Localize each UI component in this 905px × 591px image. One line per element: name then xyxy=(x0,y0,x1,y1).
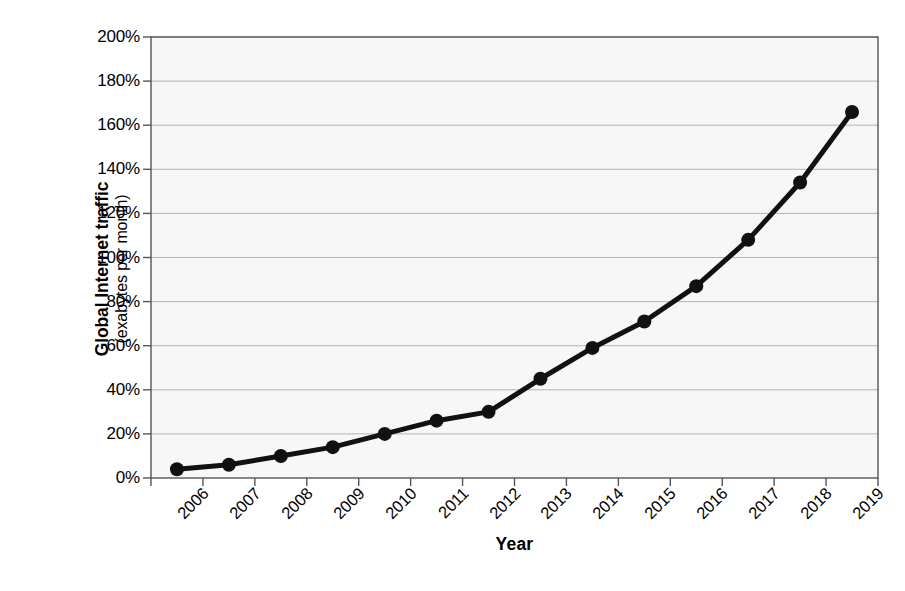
x-axis-tick-label: 2008 xyxy=(277,484,316,523)
x-axis-tick-label: 2011 xyxy=(434,484,472,522)
x-axis-tick-label: 2019 xyxy=(849,484,888,523)
x-axis-tick-label: 2016 xyxy=(693,484,732,523)
x-axis-title: Year xyxy=(151,534,878,555)
x-axis-tick-label: 2010 xyxy=(381,484,420,523)
line-chart: Global Internet traffic (exabytes per mo… xyxy=(0,0,905,591)
x-axis-tick-label: 2017 xyxy=(745,484,784,523)
x-axis-tick-label: 2015 xyxy=(641,484,680,523)
x-axis-tick-label: 2014 xyxy=(589,484,628,523)
x-axis-tick-label: 2013 xyxy=(537,484,576,523)
x-axis-tick-label: 2018 xyxy=(797,484,836,523)
x-axis-tick-label: 2009 xyxy=(329,484,368,523)
x-axis-tick-label: 2012 xyxy=(485,484,524,523)
x-axis-tick-label: 2007 xyxy=(226,484,265,523)
x-axis-tick-labels: 2006200720082009201020112012201320142015… xyxy=(0,0,905,591)
x-axis-tick-label: 2006 xyxy=(174,484,213,523)
